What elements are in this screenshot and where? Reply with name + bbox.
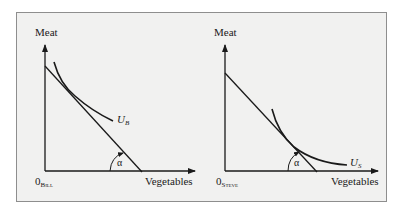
angle-label-steve: α bbox=[294, 158, 299, 168]
panel-steve bbox=[225, 45, 378, 172]
x-axis-label-bill: Vegetables bbox=[145, 176, 193, 187]
origin-subscript-bill: Bill bbox=[41, 181, 53, 189]
panel-bill bbox=[45, 45, 195, 172]
origin-label-bill: 0Bill bbox=[35, 176, 53, 189]
curve-label-bill: UB bbox=[117, 114, 129, 127]
angle-label-bill: α bbox=[117, 158, 122, 168]
origin-subscript-steve: Steve bbox=[222, 181, 239, 189]
curve-label-steve: US bbox=[350, 157, 361, 170]
indifference-curve-steve bbox=[272, 109, 347, 165]
x-axis-label-steve: Vegetables bbox=[331, 176, 379, 187]
y-axis-label-bill: Meat bbox=[35, 27, 58, 38]
y-axis-label-steve: Meat bbox=[214, 27, 237, 38]
budget-line-steve bbox=[225, 73, 317, 172]
origin-label-steve: 0Steve bbox=[216, 176, 238, 189]
indifference-curve-bill bbox=[54, 62, 113, 121]
